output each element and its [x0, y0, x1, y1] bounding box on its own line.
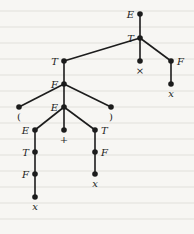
node-label: F	[21, 169, 30, 180]
node-dot	[61, 104, 67, 110]
node-label: T	[51, 56, 59, 67]
node-dot	[92, 171, 98, 177]
node-label: ×	[136, 65, 144, 76]
node-label: x	[92, 178, 98, 189]
tree-node: )	[108, 104, 114, 122]
node-dot	[92, 127, 98, 133]
tree-node: (	[16, 104, 22, 122]
node-dot	[16, 104, 22, 110]
node-label: E	[126, 9, 135, 20]
node-label: x	[168, 88, 174, 99]
tree-edge	[64, 107, 95, 130]
node-label: E	[21, 125, 30, 136]
tree-edge	[140, 38, 171, 61]
node-label: +	[60, 134, 68, 145]
parse-tree: ET×FxTF(E)E+TTFxFx	[0, 0, 194, 234]
node-label: E	[50, 102, 59, 113]
tree-edges	[19, 14, 171, 197]
tree-nodes: ET×FxTF(E)E+TTFxFx	[16, 9, 185, 213]
tree-node: +	[60, 127, 68, 145]
node-label: F	[50, 79, 59, 90]
tree-node: x	[168, 81, 174, 99]
tree-edge	[35, 107, 64, 130]
node-dot	[137, 35, 143, 41]
node-dot	[168, 58, 174, 64]
tree-edge	[64, 84, 111, 107]
node-label: T	[127, 33, 135, 44]
node-dot	[137, 58, 143, 64]
node-dot	[108, 104, 114, 110]
tree-node: ×	[136, 58, 144, 76]
node-label: x	[32, 201, 38, 212]
node-label: )	[109, 111, 113, 122]
node-dot	[61, 127, 67, 133]
node-label: F	[100, 147, 109, 158]
node-dot	[92, 149, 98, 155]
node-dot	[32, 171, 38, 177]
node-dot	[61, 58, 67, 64]
tree-node: x	[92, 171, 98, 189]
node-label: (	[17, 111, 21, 122]
node-label: T	[101, 125, 109, 136]
node-dot	[168, 81, 174, 87]
node-dot	[32, 194, 38, 200]
node-label: F	[176, 56, 185, 67]
tree-node: x	[32, 194, 38, 212]
node-dot	[32, 127, 38, 133]
node-label: T	[22, 147, 30, 158]
node-dot	[32, 149, 38, 155]
node-dot	[61, 81, 67, 87]
node-dot	[137, 11, 143, 17]
